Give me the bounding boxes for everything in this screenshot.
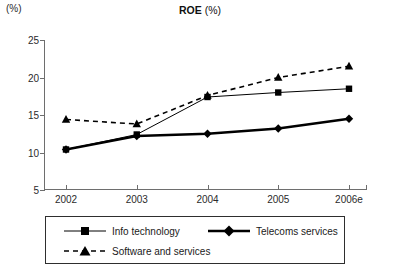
series-software-and-services bbox=[62, 62, 353, 127]
series-telecoms-services bbox=[62, 115, 353, 154]
y-tick-label: 5 bbox=[33, 185, 39, 196]
x-tick-label: 2006e bbox=[335, 194, 363, 205]
y-tick-label: 10 bbox=[28, 147, 39, 158]
chart-title-main: ROE bbox=[179, 4, 202, 16]
chart-title: ROE (%) bbox=[0, 4, 400, 16]
data-point-marker bbox=[274, 73, 282, 81]
roe-line-chart: (%) ROE (%) 510152025 200220032004200520… bbox=[0, 0, 400, 271]
y-tick-label: 20 bbox=[28, 72, 39, 83]
y-tick-label: 25 bbox=[28, 35, 39, 46]
legend-label-info-technology: Info technology bbox=[112, 226, 180, 237]
legend-row-1: Info technology Telecoms services bbox=[46, 221, 344, 241]
x-tick-label: 2003 bbox=[126, 194, 148, 205]
chart-title-unit: (%) bbox=[205, 4, 221, 16]
series-plot-layer bbox=[44, 40, 367, 190]
data-point-marker bbox=[275, 89, 281, 95]
data-point-marker bbox=[203, 130, 211, 138]
x-tick-label: 2002 bbox=[55, 194, 77, 205]
legend-key-square-icon bbox=[62, 224, 108, 238]
legend-label-telecoms-services: Telecoms services bbox=[256, 226, 338, 237]
data-point-marker bbox=[346, 86, 352, 92]
chart-legend: Info technology Telecoms services bbox=[45, 216, 345, 264]
data-point-marker bbox=[345, 115, 353, 123]
plot-area: 510152025 20022003200420052006e bbox=[44, 40, 367, 190]
data-point-marker bbox=[345, 62, 353, 70]
y-tick-label: 15 bbox=[28, 110, 39, 121]
legend-label-software-and-services: Software and services bbox=[112, 246, 210, 257]
y-tick bbox=[40, 190, 45, 191]
legend-row-2: Software and services bbox=[46, 242, 344, 260]
legend-key-diamond-icon bbox=[206, 224, 252, 238]
legend-key-triangle-icon bbox=[62, 244, 108, 258]
legend-item-software-and-services: Software and services bbox=[62, 244, 210, 258]
x-tick-label: 2004 bbox=[196, 194, 218, 205]
legend-item-info-technology: Info technology bbox=[62, 224, 180, 238]
x-tick-label: 2005 bbox=[267, 194, 289, 205]
data-point-marker bbox=[274, 124, 282, 132]
legend-item-telecoms-services: Telecoms services bbox=[206, 224, 338, 238]
